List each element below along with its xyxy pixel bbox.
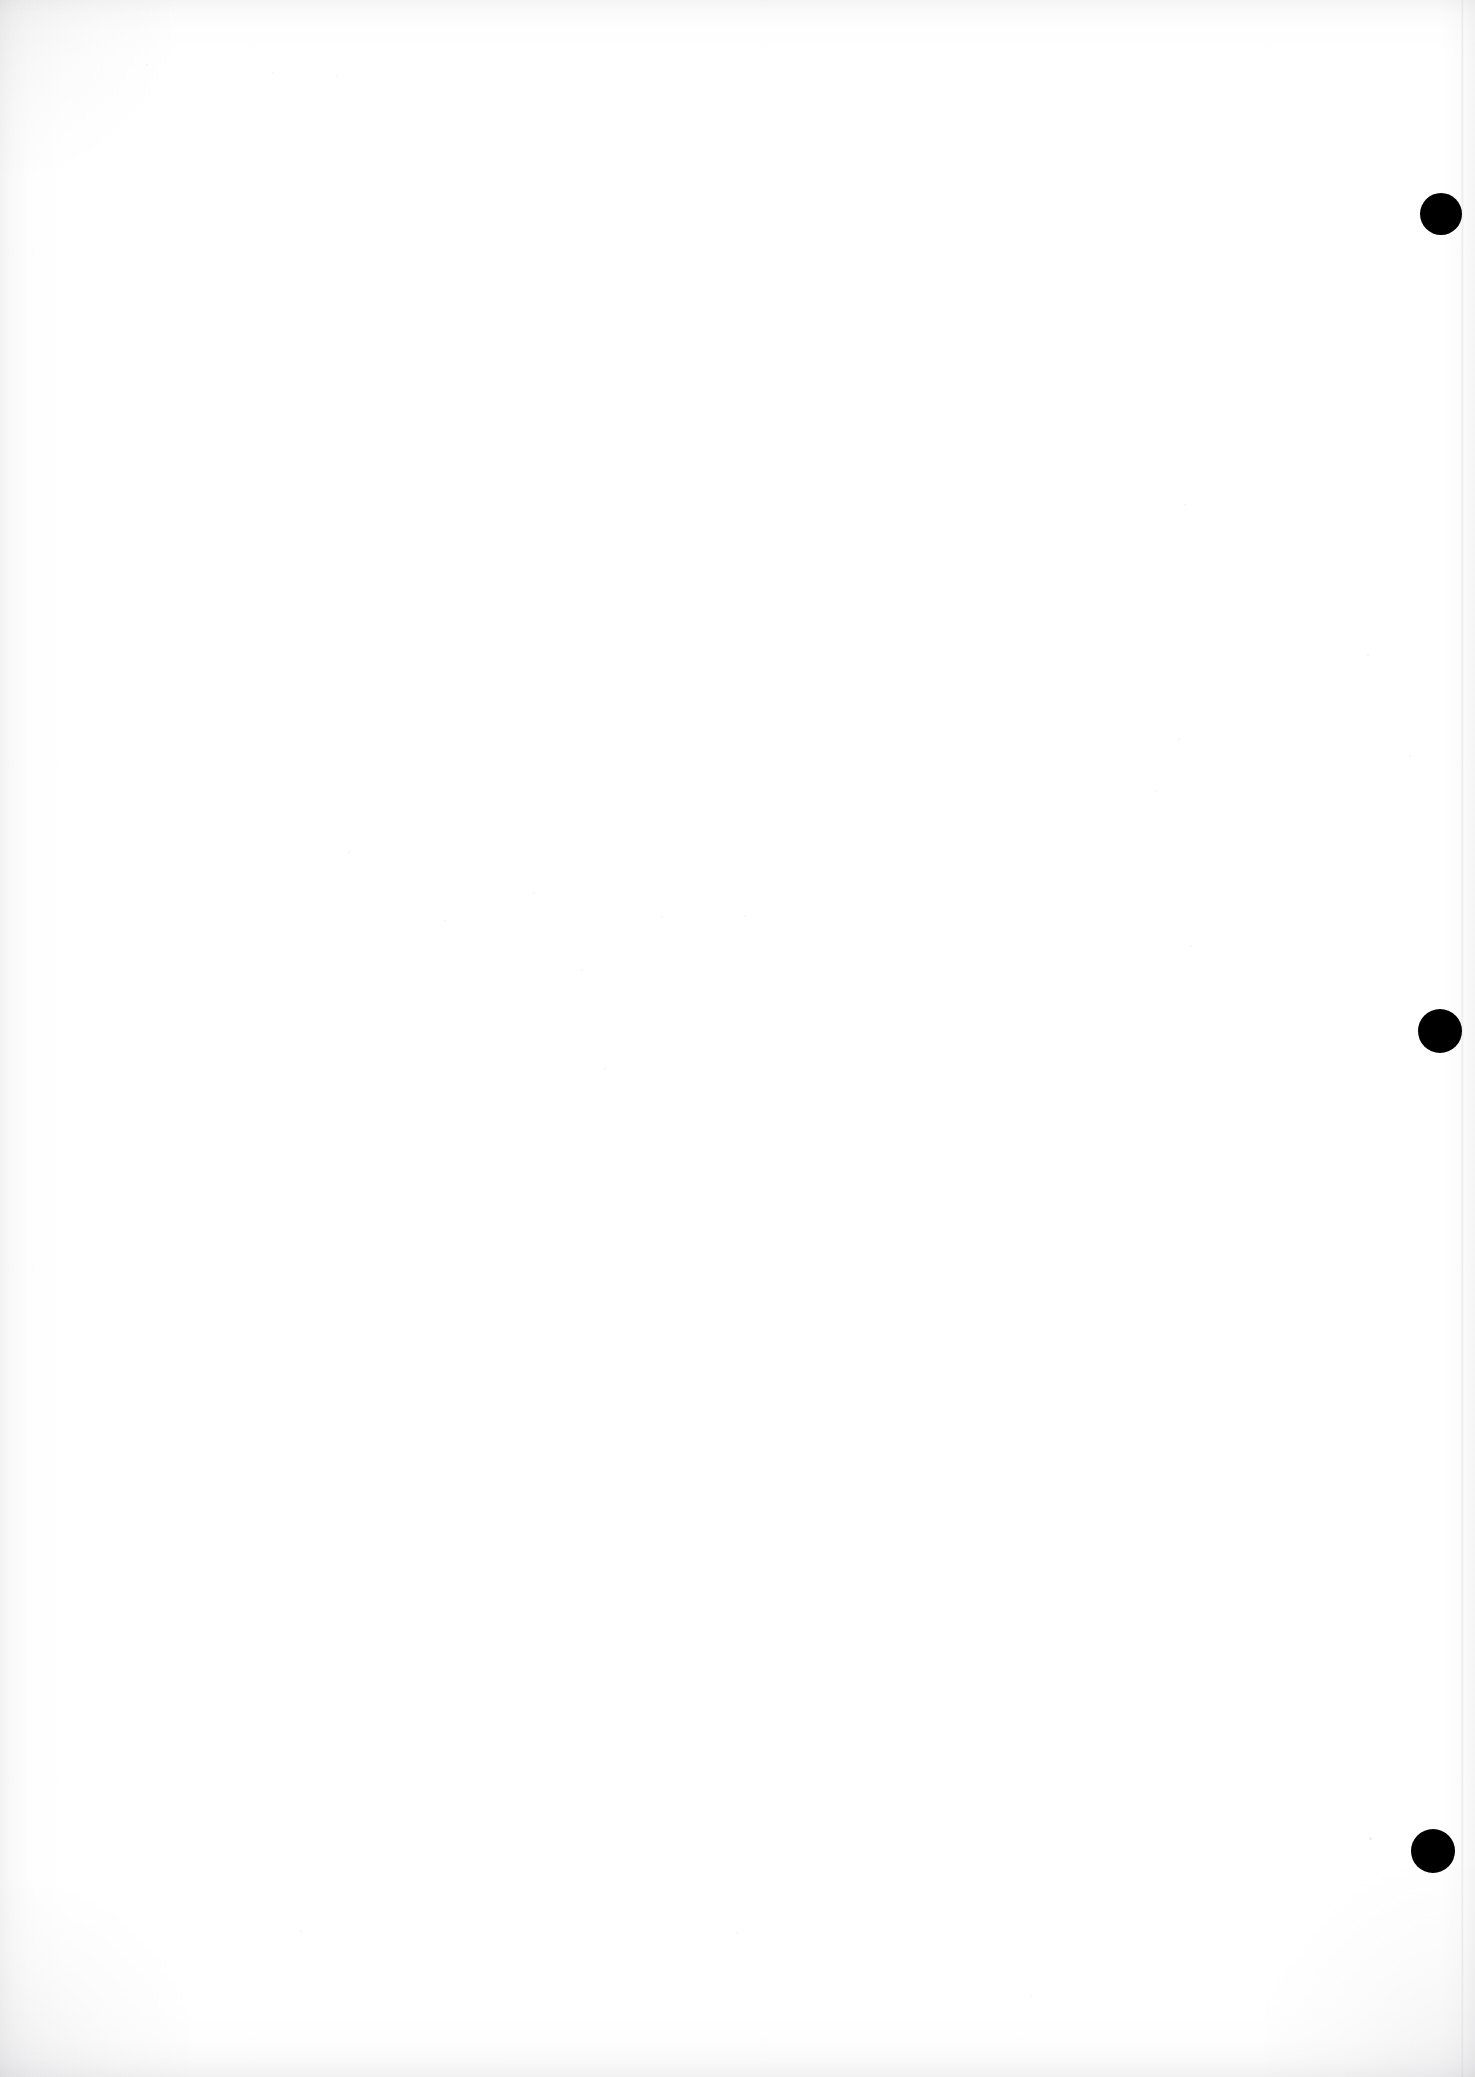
scanned-page xyxy=(0,0,1475,2077)
margin-mark-top xyxy=(1420,193,1462,235)
margin-mark-bottom xyxy=(1411,1829,1455,1873)
margin-mark-middle xyxy=(1418,1009,1462,1053)
margin-marks-layer xyxy=(0,0,1475,2077)
